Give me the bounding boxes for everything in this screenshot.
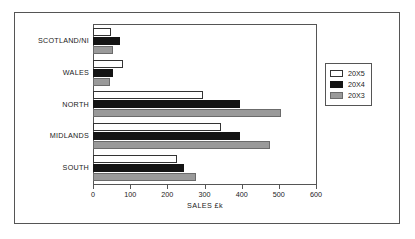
category-label: WALES [17,68,89,77]
x-axis-tick-label: 100 [124,190,136,199]
bar-north-20X4[interactable] [93,100,240,108]
bar-group [93,89,316,121]
x-axis-tick [93,185,94,189]
bar-south-20X3[interactable] [93,173,196,181]
x-axis-tick [167,185,168,189]
bar-wales-20X5[interactable] [93,60,123,68]
x-axis-title: SALES £k [93,201,317,210]
bar-wales-20X4[interactable] [93,69,113,77]
bars-layer [93,25,316,184]
bar-group [93,57,316,89]
x-axis-tick [279,185,280,189]
x-axis-tick-label: 300 [199,190,211,199]
category-label: NORTH [17,100,89,109]
category-label: SOUTH [17,163,89,172]
legend-item-20X4[interactable]: 20X4 [330,79,365,90]
bar-midlands-20X3[interactable] [93,141,270,149]
legend-swatch-icon [330,70,343,77]
x-axis-tick [130,185,131,189]
category-label: SCOTLAND/NI [17,36,89,45]
chart-figure: SCOTLAND/NIWALESNORTHMIDLANDSSOUTH SALES… [14,12,400,224]
x-axis-tick [242,185,243,189]
bar-north-20X3[interactable] [93,109,281,117]
chart-legend: 20X520X420X3 [325,63,372,106]
bar-south-20X4[interactable] [93,164,184,172]
bar-group [93,25,316,57]
legend-label: 20X3 [348,91,365,100]
bar-group [93,152,316,184]
bar-midlands-20X4[interactable] [93,132,240,140]
bar-midlands-20X5[interactable] [93,123,221,131]
bar-north-20X5[interactable] [93,91,203,99]
bar-group [93,120,316,152]
x-axis-tick-label: 600 [310,190,322,199]
legend-swatch-icon [330,92,343,99]
legend-swatch-icon [330,81,343,88]
bar-scotland-ni-20X4[interactable] [93,37,120,45]
bar-wales-20X3[interactable] [93,78,110,86]
x-axis-tick-label: 400 [236,190,248,199]
legend-label: 20X5 [348,69,365,78]
x-axis-tick [205,185,206,189]
x-axis-tick-label: 0 [91,190,95,199]
category-label: MIDLANDS [17,131,89,140]
x-axis: SALES £k 0100200300400500600 [93,185,317,215]
x-axis-tick-label: 500 [273,190,285,199]
bar-south-20X5[interactable] [93,155,177,163]
legend-label: 20X4 [348,80,365,89]
category-axis-labels: SCOTLAND/NIWALESNORTHMIDLANDSSOUTH [15,25,89,184]
legend-item-20X5[interactable]: 20X5 [330,68,365,79]
bar-scotland-ni-20X5[interactable] [93,28,111,36]
bar-scotland-ni-20X3[interactable] [93,46,113,54]
x-axis-tick-label: 200 [161,190,173,199]
x-axis-tick [316,185,317,189]
legend-item-20X3[interactable]: 20X3 [330,90,365,101]
